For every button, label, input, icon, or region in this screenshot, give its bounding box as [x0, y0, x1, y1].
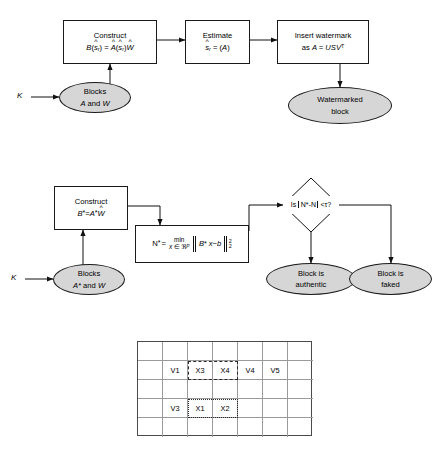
grid-cell-r5-c3 — [188, 418, 213, 437]
blocks-node-embedding-line1: Blocks — [84, 87, 106, 96]
nstar-eq: = — [162, 239, 166, 248]
watermarked-line1: Watermarked — [317, 95, 362, 104]
nstar-formula: N* = min x ∈ ℜp B* x−b 2 2 — [152, 236, 231, 252]
grid-cell-r4-c4: X2 — [213, 399, 238, 418]
decision-node: Is N*-N <τ? — [283, 196, 339, 214]
grid-cell-r4-c6 — [263, 399, 288, 418]
grid-cell-r1-c4 — [213, 342, 238, 361]
grid-cell-r1-c1 — [138, 342, 163, 361]
grid-cell-r5-c4 — [213, 418, 238, 437]
nstar-lhs: N* — [152, 239, 160, 249]
blocks-w-label: W — [102, 99, 109, 108]
watermarked-line2: block — [331, 107, 349, 116]
grid-cell-r3-c3 — [188, 380, 213, 399]
estimate-box-formula: s^r = (A) — [205, 43, 229, 53]
grid-cell-r4-c1 — [138, 399, 163, 418]
grid-cell-r4-c3: X1 — [188, 399, 213, 418]
block-grid-cells: V1X3X4V4V5V3X1X2 — [138, 342, 311, 435]
blocks-node-embedding: Blocks A and W — [59, 82, 131, 113]
grid-cell-r5-c6 — [263, 418, 288, 437]
authentic-line1: Block is — [298, 269, 324, 278]
grid-cell-r3-c1 — [138, 380, 163, 399]
construct-box-formula: B(s^r) = A^(s^r)W^ — [86, 43, 133, 53]
grid-cell-r4-c2: V3 — [163, 399, 188, 418]
norm-indices: 2 2 — [229, 239, 232, 250]
watermarked-block-node: Watermarked block — [288, 87, 392, 124]
blocks-node-auth-line1: Blocks — [78, 269, 100, 278]
insert-watermark-title: Insert watermark — [295, 31, 352, 40]
grid-cell-r3-c6 — [263, 380, 288, 399]
blocks-node-embedding-line2: A and W — [80, 99, 109, 108]
insert-watermark-box: Insert watermark as A = USVT — [277, 20, 369, 64]
grid-cell-r3-c4 — [213, 380, 238, 399]
grid-cell-r2-c5: V4 — [238, 361, 263, 380]
grid-cell-r2-c6: V5 — [263, 361, 288, 380]
grid-cell-r5-c5 — [238, 418, 263, 437]
insert-watermark-formula: as A = USVT — [302, 43, 345, 53]
grid-cell-r2-c2: V1 — [163, 361, 188, 380]
arrow-decision-to-faked — [339, 205, 391, 263]
decision-text: Is N*-N <τ? — [291, 201, 331, 210]
block-faked-node: Block is faked — [349, 263, 432, 295]
diagram-canvas: K Blocks A and W Construct B(s^r) = A^(s… — [0, 0, 436, 452]
blocks-a-label: A — [80, 99, 85, 108]
grid-cell-r3-c5 — [238, 380, 263, 399]
grid-cell-r3-c2 — [163, 380, 188, 399]
insert-transpose-sup: T — [341, 43, 344, 49]
insert-as-word: as — [302, 43, 310, 52]
min-bottom-label: x ∈ ℜp — [169, 243, 190, 251]
block-authentic-node: Block is authentic — [266, 263, 356, 295]
grid-cell-r1-c3 — [188, 342, 213, 361]
faked-line2: faked — [381, 280, 400, 289]
grid-cell-r3-c7 — [288, 380, 313, 399]
blocks-node-auth-line2: A* and W — [73, 281, 105, 290]
grid-cell-r5-c7 — [288, 418, 313, 437]
min-operator: min x ∈ ℜp — [169, 237, 190, 252]
norm-subscript: 2 — [229, 244, 232, 249]
faked-line1: Block is — [377, 269, 403, 278]
decision-abs: N*-N — [298, 201, 318, 208]
blocks-auth-and-label: and — [83, 281, 96, 290]
grid-cell-r2-c7 — [288, 361, 313, 380]
key-label-authentication: K — [11, 273, 16, 282]
estimate-box: Estimate s^r = (A) — [185, 20, 250, 64]
blocks-node-authentication: Blocks A* and W — [53, 264, 125, 295]
grid-cell-r2-c1 — [138, 361, 163, 380]
block-grid: V1X3X4V4V5V3X1X2 — [137, 341, 312, 436]
grid-cell-r1-c2 — [163, 342, 188, 361]
min-top-label: min — [174, 237, 184, 244]
grid-cell-r4-c5 — [238, 399, 263, 418]
construct-box-embedding: Construct B(s^r) = A^(s^r)W^ — [63, 20, 157, 64]
grid-cell-r5-c2 — [163, 418, 188, 437]
construct-box-authentication: Construct B*=A*W^ — [54, 186, 128, 230]
insert-equation: A = USV — [312, 43, 341, 52]
construct2-formula: B*=A*W^ — [77, 209, 104, 219]
arrow-nstar-to-decision — [249, 205, 283, 231]
grid-cell-r1-c7 — [288, 342, 313, 361]
grid-cell-r4-c7 — [288, 399, 313, 418]
decision-post: <τ? — [320, 201, 331, 208]
grid-cell-r1-c6 — [263, 342, 288, 361]
decision-pre: Is — [291, 201, 296, 208]
authentic-line2: authentic — [296, 280, 327, 289]
grid-cell-r1-c5 — [238, 342, 263, 361]
grid-cell-r5-c1 — [138, 418, 163, 437]
grid-cell-r2-c3: X3 — [188, 361, 213, 380]
arrow-construct2-to-nstar — [128, 206, 160, 225]
blocks-and-label: and — [88, 99, 101, 108]
grid-cell-r2-c4: X4 — [213, 361, 238, 380]
blocks-astar-label: A* — [73, 281, 81, 290]
norm-expression: B* x−b 2 2 — [193, 236, 232, 252]
key-label-embedding: K — [17, 91, 22, 100]
nstar-minimization-box: N* = min x ∈ ℜp B* x−b 2 2 — [135, 225, 249, 263]
blocks-auth-w-label: W — [98, 281, 105, 290]
